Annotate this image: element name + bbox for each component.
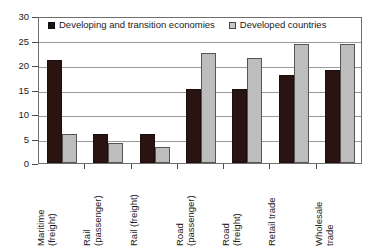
x-axis-category-label: Rail(passenger) [84, 168, 130, 246]
x-axis-category-label-line: Wholesale [314, 168, 324, 246]
x-axis-category-label: Wholesaletrade [316, 168, 362, 246]
bar [62, 134, 77, 163]
x-axis-category-label-line: Road [175, 168, 185, 246]
x-axis-category-label-line: trade [325, 168, 335, 246]
gridline [39, 67, 361, 68]
bar [47, 60, 62, 163]
y-axis-tick-label: 15 [18, 86, 29, 96]
bar [279, 75, 294, 163]
bar [140, 134, 155, 163]
bar [186, 89, 201, 163]
x-axis-category-label-line: Rail [82, 168, 92, 246]
y-axis-tick-label: 30 [18, 12, 29, 22]
legend-item-label: Developed countries [240, 20, 327, 30]
gridline [39, 42, 361, 43]
x-axis-category-label-line: Rail (freight) [129, 168, 139, 246]
x-axis-category-label: Road(freight) [223, 168, 269, 246]
bar [294, 44, 309, 163]
bar [201, 53, 216, 163]
bar [325, 70, 340, 163]
bar [340, 44, 355, 163]
y-axis-tick-label: 20 [18, 61, 29, 71]
legend-swatch-light-icon [229, 22, 236, 29]
y-axis-tick-mark [32, 164, 38, 165]
legend-item: Developed countries [229, 20, 327, 30]
bar [247, 58, 262, 163]
x-axis-category-label: Maritime(freight) [38, 168, 84, 246]
bar [232, 89, 247, 163]
x-axis-category-label: Rail (freight) [131, 168, 177, 246]
x-axis-category-label-line: (freight) [47, 168, 57, 246]
y-axis-tick-label: 10 [18, 110, 29, 120]
y-axis: 051015202530 [0, 0, 38, 248]
x-axis-category-label-line: Retail trade [267, 168, 277, 246]
y-axis-tick-label: 5 [24, 135, 29, 145]
x-axis-category-label-line: Maritime [36, 168, 46, 246]
bar [155, 147, 170, 163]
x-axis-category-label-line: (passenger) [186, 168, 196, 246]
legend-item: Developing and transition economies [48, 20, 215, 30]
y-axis-tick-label: 25 [18, 37, 29, 47]
x-axis-category-label-line: Road [221, 168, 231, 246]
bar [108, 143, 123, 163]
plot-area [38, 17, 362, 164]
x-axis-category-label-line: (passenger) [93, 168, 103, 246]
x-axis-category-label-line: (freight) [232, 168, 242, 246]
chart-legend: Developing and transition economiesDevel… [48, 20, 326, 30]
bar-chart: 051015202530 Maritime(freight)Rail(passe… [0, 0, 372, 248]
y-axis-tick-label: 0 [24, 159, 29, 169]
legend-swatch-dark-icon [48, 22, 55, 29]
x-axis-category-label: Retail trade [269, 168, 315, 246]
legend-item-label: Developing and transition economies [59, 20, 215, 30]
bar [93, 134, 108, 163]
x-axis-category-label: Road(passenger) [177, 168, 223, 246]
